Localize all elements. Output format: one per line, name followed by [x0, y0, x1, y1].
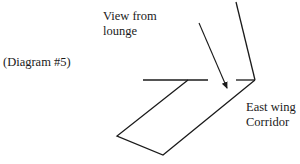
view-from-lounge-line1: View from — [103, 9, 157, 24]
north-wall — [236, 2, 255, 80]
diagram-canvas: View from lounge (Diagram #5) East wing … — [0, 0, 300, 164]
east-wing-corridor-line1: East wing — [246, 100, 296, 115]
view-from-lounge-line2: lounge — [103, 24, 157, 39]
view-from-lounge-label: View from lounge — [103, 9, 157, 39]
view-from-lounge-arrow — [199, 23, 227, 88]
east-wing-corridor-label: East wing Corridor — [246, 100, 296, 130]
east-wing-corridor-line2: Corridor — [246, 115, 296, 130]
east-wing-corridor-outline — [117, 80, 255, 155]
diagram-caption: (Diagram #5) — [3, 55, 71, 70]
